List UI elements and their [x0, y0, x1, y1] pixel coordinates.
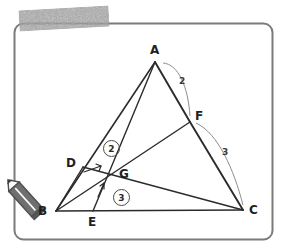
vertex-label-A: A [150, 44, 159, 56]
side-AC-upper [155, 62, 190, 122]
measure-arc-layer [163, 63, 243, 205]
arc-FC-length [196, 123, 243, 205]
segment-layer [56, 62, 243, 211]
ratio-mark-2-label: 2 [108, 144, 114, 154]
vertex-label-C: C [249, 204, 258, 216]
vertex-label-B: B [38, 205, 47, 217]
segment-B-to-D [56, 167, 83, 211]
arc-FC-length-label: 3 [222, 148, 228, 157]
vertex-label-G: G [119, 168, 129, 180]
side-FC-lower [190, 122, 243, 210]
vertex-label-F: F [195, 110, 203, 122]
ratio-mark-3-label: 3 [118, 193, 124, 203]
tick-arrow-on-EG [98, 183, 104, 197]
vertex-label-D: D [66, 157, 76, 169]
ratio-mark-3: 3 [113, 189, 130, 206]
side-BC [56, 210, 243, 211]
ratio-mark-2: 2 [103, 140, 120, 157]
vertex-label-E: E [88, 216, 96, 228]
arc-AF-length [163, 63, 190, 116]
diagram-canvas: ABCDEFG 23 23 [0, 0, 286, 248]
side-AB [56, 62, 155, 211]
arc-AF-length-label: 2 [179, 77, 185, 86]
cevian-D-to-C [83, 167, 243, 210]
